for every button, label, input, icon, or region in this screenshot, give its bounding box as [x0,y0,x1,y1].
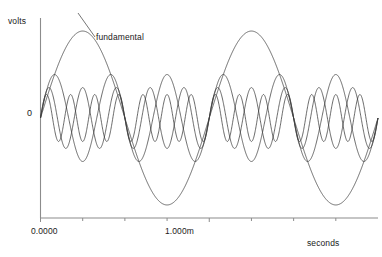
fundamental-annotation: fundamental [96,32,144,42]
chart-canvas [0,0,382,257]
y-axis-tick-zero: 0 [27,108,32,118]
waveform-plot: volts 0 0.0000 1.000m seconds fundamenta… [0,0,382,257]
y-axis-label: volts [8,16,26,26]
x-axis-tick-0: 0.0000 [31,226,58,236]
trace-group [41,13,379,205]
x-axis-tick-1: 1.000m [165,226,194,236]
x-axis-label: seconds [307,238,339,248]
